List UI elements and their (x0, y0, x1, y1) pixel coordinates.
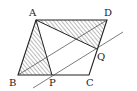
label-c: C (86, 77, 94, 88)
shaded-triangle-abp (18, 20, 52, 75)
label-d: D (104, 7, 112, 18)
label-p: P (49, 77, 56, 88)
label-a: A (28, 7, 37, 18)
label-q: Q (97, 51, 105, 62)
geometry-diagram: A D B P C Q (0, 0, 137, 91)
label-b: B (9, 77, 16, 88)
shaded-triangle-aqd (36, 20, 107, 49)
